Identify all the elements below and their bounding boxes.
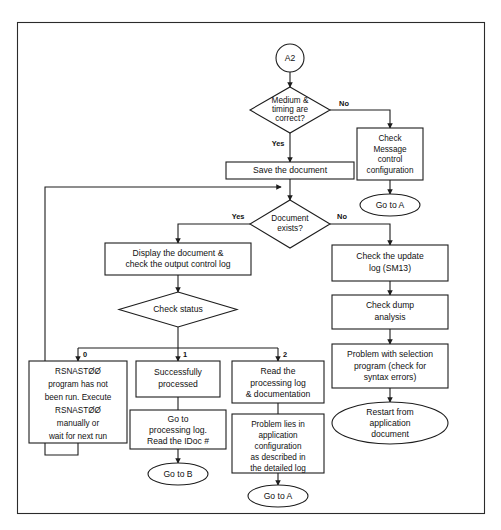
connector-docexists-no — [330, 224, 390, 245]
check-message-control-line4: configuration — [367, 166, 414, 175]
rsnast-not-run-line2: program has not — [48, 380, 108, 389]
successfully-processed-line2: processed — [158, 379, 198, 389]
edge-label-medium-yes: Yes — [272, 139, 285, 148]
restart-from-application-line2: application — [369, 418, 410, 428]
decision-medium-timing-line1: Medium & — [272, 96, 309, 105]
connector-docexists-yes — [178, 224, 250, 243]
problem-lies-in-app-line2: application — [258, 431, 298, 440]
rsnast-not-run-line3: been run. Execute — [45, 393, 112, 402]
check-message-control-line2: Message — [373, 145, 407, 154]
decision-medium-timing-line2: timing are — [272, 105, 308, 114]
edge-label-document-no: No — [337, 212, 347, 221]
rsnast-not-run-line1: RSNASTØØ — [55, 367, 102, 376]
check-message-control-line1: Check — [378, 134, 402, 143]
problem-lies-in-app-line4: as described in — [250, 453, 306, 462]
decision-check-status-label: Check status — [153, 304, 203, 314]
check-dump-analysis-line1: Check dump — [366, 300, 414, 310]
problem-with-selection-line3: syntax errors) — [364, 372, 417, 382]
check-update-log-line2: log (SM13) — [369, 263, 411, 273]
edge-label-medium-no: No — [339, 99, 349, 108]
problem-lies-in-app-line3: configuration — [255, 442, 302, 451]
edge-label-status-1: 1 — [183, 350, 187, 359]
rsnast-not-run-line4: RSNASTØØ — [55, 406, 102, 415]
edge-label-status-2: 2 — [283, 350, 287, 359]
goto-processing-log-line2: processing log. — [149, 425, 207, 435]
goto-a-bottom-label: Go to A — [264, 491, 293, 501]
check-update-log-line1: Check the update — [356, 251, 424, 261]
successfully-processed-line1: Successfully — [154, 367, 202, 377]
decision-medium-timing-line3: correct? — [275, 114, 305, 123]
goto-b-label: Go to B — [163, 469, 192, 479]
display-document-line1: Display the document & — [133, 248, 224, 258]
goto-a-right-label: Go to A — [376, 200, 405, 210]
problem-lies-in-app-line5: the detailed log — [250, 464, 306, 473]
check-message-control-line3: control — [378, 155, 403, 164]
display-document-line2: check the output control log — [125, 259, 230, 269]
rsnast-not-run-line5: manually or — [57, 419, 100, 428]
problem-with-selection-line1: Problem with selection — [347, 349, 433, 359]
decision-document-exists-line2: exists? — [277, 224, 303, 233]
goto-processing-log-line1: Go to — [167, 414, 188, 424]
edge-label-document-yes: Yes — [232, 212, 245, 221]
connector-medium-no — [330, 110, 390, 128]
start-connector-label: A2 — [285, 53, 296, 63]
edge-label-status-0: 0 — [83, 350, 87, 359]
decision-document-exists-line1: Document — [271, 214, 309, 223]
flowchart-canvas: A2 Medium & timing are correct? No Yes C… — [0, 0, 501, 530]
read-processing-log-line1: Read the — [261, 366, 296, 376]
rsnast-not-run-line6: wait for next run — [48, 432, 108, 441]
goto-processing-log-line3: Read the IDoc # — [147, 436, 209, 446]
save-document-label: Save the document — [253, 165, 328, 175]
read-processing-log-line2: processing log — [250, 378, 306, 388]
restart-from-application-line3: document — [371, 429, 409, 439]
flowchart-svg: A2 Medium & timing are correct? No Yes C… — [0, 0, 501, 530]
restart-from-application-line1: Restart from — [366, 407, 413, 417]
problem-lies-in-app-line1: Problem lies in — [251, 420, 305, 429]
read-processing-log-line3: & documentation — [246, 389, 311, 399]
check-dump-analysis-line2: analysis — [374, 312, 405, 322]
problem-with-selection-line2: program (check for — [354, 361, 426, 371]
